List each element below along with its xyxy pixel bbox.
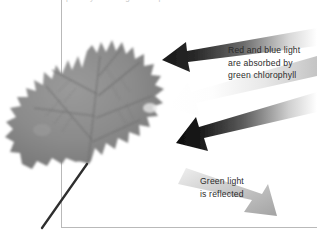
annotation-absorbed-line-1: Red and blue light	[228, 44, 300, 57]
annotation-reflected: Green light is reflected	[200, 175, 244, 200]
light-ray-arrows	[0, 0, 317, 233]
annotation-absorbed-line-3: green chlorophyll	[228, 69, 300, 82]
annotation-reflected-line-2: is reflected	[200, 188, 244, 201]
annotation-absorbed: Red and blue light are absorbed by green…	[228, 44, 300, 82]
light-absorption-diagram: photosynthesis light absorption in a lea…	[0, 0, 317, 233]
annotation-absorbed-line-2: are absorbed by	[228, 57, 300, 70]
annotation-reflected-line-1: Green light	[200, 175, 244, 188]
